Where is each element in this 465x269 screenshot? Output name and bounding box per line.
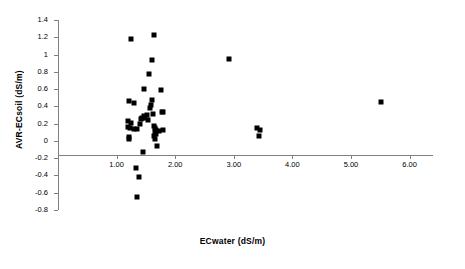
data-point bbox=[132, 100, 137, 105]
x-tick bbox=[117, 155, 118, 159]
data-point bbox=[128, 37, 133, 42]
y-tick: 1 bbox=[54, 55, 58, 56]
data-point bbox=[135, 195, 140, 200]
x-tick bbox=[234, 155, 235, 159]
y-tick-label: 1.4 bbox=[38, 16, 48, 24]
y-tick-label: 0.2 bbox=[38, 120, 48, 128]
data-point bbox=[146, 118, 151, 123]
x-tick bbox=[410, 155, 411, 159]
y-tick: -0.4 bbox=[54, 175, 58, 176]
y-tick-label: 1.2 bbox=[38, 34, 48, 42]
data-point bbox=[132, 126, 137, 131]
data-point bbox=[155, 144, 160, 149]
x-tick-label: 4.00 bbox=[285, 161, 300, 169]
x-tick-label: 1.00 bbox=[109, 161, 124, 169]
x-tick bbox=[175, 155, 176, 159]
data-point bbox=[147, 106, 152, 111]
y-tick-label: 0.6 bbox=[38, 85, 48, 93]
data-point bbox=[146, 72, 151, 77]
data-point bbox=[256, 133, 261, 138]
x-axis-title: ECwater (dS/m) bbox=[0, 236, 465, 246]
y-tick-label: 0.4 bbox=[38, 103, 48, 111]
y-tick: -0.8 bbox=[54, 210, 58, 211]
y-tick: 0.6 bbox=[54, 89, 58, 90]
y-axis-line bbox=[58, 20, 59, 210]
x-tick bbox=[351, 155, 352, 159]
plot-area: -0.8-0.6-0.4-0.200.20.40.60.811.21.4 1.0… bbox=[58, 20, 433, 210]
y-tick: 0.4 bbox=[54, 106, 58, 107]
y-tick: -0.6 bbox=[54, 193, 58, 194]
x-tick bbox=[292, 155, 293, 159]
data-point bbox=[142, 87, 147, 92]
data-point bbox=[379, 100, 384, 105]
y-axis-title: AVR-ECsoil (dS/m) bbox=[14, 50, 30, 170]
data-point bbox=[226, 56, 231, 61]
data-point bbox=[158, 87, 163, 92]
data-point bbox=[150, 112, 155, 117]
y-tick-label: -0.2 bbox=[35, 154, 48, 162]
y-tick-label: -0.8 bbox=[35, 206, 48, 214]
x-tick-label: 5.00 bbox=[344, 161, 359, 169]
data-point bbox=[153, 137, 158, 142]
data-point bbox=[133, 165, 138, 170]
x-axis-line bbox=[58, 155, 433, 156]
y-tick-label: 1 bbox=[44, 51, 48, 59]
data-point bbox=[140, 150, 145, 155]
data-point bbox=[136, 175, 141, 180]
data-point bbox=[127, 137, 132, 142]
y-tick-label: 0.8 bbox=[38, 68, 48, 76]
x-tick-label: 6.00 bbox=[402, 161, 417, 169]
y-tick: 1.4 bbox=[54, 20, 58, 21]
y-tick-label: -0.6 bbox=[35, 189, 48, 197]
data-point bbox=[161, 110, 166, 115]
y-tick: 0.2 bbox=[54, 124, 58, 125]
data-point bbox=[151, 32, 156, 37]
y-tick-label: 0 bbox=[44, 137, 48, 145]
x-tick-label: 3.00 bbox=[226, 161, 241, 169]
scatter-chart-figure: -0.8-0.6-0.4-0.200.20.40.60.811.21.4 1.0… bbox=[0, 0, 465, 269]
x-tick-label: 2.00 bbox=[168, 161, 183, 169]
data-point bbox=[161, 127, 166, 132]
y-tick: 1.2 bbox=[54, 37, 58, 38]
data-point bbox=[149, 57, 154, 62]
y-tick: 0.8 bbox=[54, 72, 58, 73]
data-point bbox=[257, 127, 262, 132]
y-tick-label: -0.4 bbox=[35, 172, 48, 180]
y-tick: -0.2 bbox=[54, 158, 58, 159]
y-tick: 0 bbox=[54, 141, 58, 142]
